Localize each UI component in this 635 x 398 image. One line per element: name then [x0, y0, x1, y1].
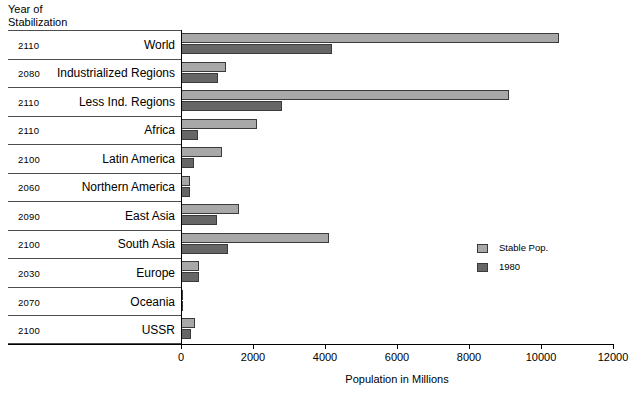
row-year: 2110 — [18, 96, 39, 107]
row-category-label: USSR — [142, 323, 175, 337]
x-tick-label: 2000 — [241, 351, 265, 363]
category-row: 2110Africa — [8, 116, 181, 145]
bars-column — [181, 30, 613, 344]
bar-year-1980 — [181, 101, 282, 111]
category-row: 2100South Asia — [8, 230, 181, 259]
bar-stable-pop — [181, 62, 226, 72]
category-label-column: 2110World2080Industrialized Regions2110L… — [8, 30, 181, 344]
x-tick-label: 8000 — [457, 351, 481, 363]
year-of-stabilization-header: Year of Stabilization — [8, 3, 67, 29]
bar-row — [181, 315, 613, 344]
row-year: 2090 — [18, 210, 40, 221]
x-tick-label: 10000 — [526, 351, 557, 363]
row-year: 2060 — [18, 182, 40, 193]
bar-row — [181, 59, 613, 88]
bar-year-1980 — [181, 329, 191, 339]
bar-year-1980 — [181, 244, 228, 254]
bar-stable-pop — [181, 119, 257, 129]
bar-row — [181, 30, 613, 59]
bar-row — [181, 173, 613, 202]
row-category-label: Northern America — [82, 180, 175, 194]
x-tick-label: 0 — [178, 351, 184, 363]
x-tick — [397, 344, 398, 349]
x-axis-label: Population in Millions — [181, 373, 613, 385]
row-year: 2080 — [18, 68, 40, 79]
x-tick — [253, 344, 254, 349]
x-axis-line — [8, 344, 613, 345]
row-category-label: Latin America — [102, 152, 175, 166]
legend: Stable Pop.1980 — [477, 241, 597, 279]
x-tick — [325, 344, 326, 349]
row-year: 2100 — [18, 153, 40, 164]
row-category-label: East Asia — [125, 209, 175, 223]
legend-swatch-icon — [477, 263, 488, 272]
x-tick — [613, 344, 614, 349]
row-year: 2110 — [18, 39, 39, 50]
plot-area: 2110World2080Industrialized Regions2110L… — [8, 30, 613, 344]
x-tick-label: 12000 — [598, 351, 629, 363]
category-row: 2070Oceania — [8, 287, 181, 316]
category-row: 2060Northern America — [8, 173, 181, 202]
category-axis-line — [181, 30, 182, 344]
bar-stable-pop — [181, 318, 195, 328]
legend-label: Stable Pop. — [499, 241, 548, 255]
category-row: 2100Latin America — [8, 144, 181, 173]
row-category-label: World — [144, 38, 175, 52]
category-row: 2080Industrialized Regions — [8, 59, 181, 88]
bar-year-1980 — [181, 158, 194, 168]
legend-item: Stable Pop. — [477, 241, 597, 260]
category-row: 2110World — [8, 30, 181, 59]
bar-stable-pop — [181, 233, 329, 243]
row-year: 2110 — [18, 125, 39, 136]
row-year: 2070 — [18, 296, 40, 307]
bar-year-1980 — [181, 187, 190, 197]
bar-stable-pop — [181, 176, 190, 186]
row-category-label: South Asia — [118, 237, 175, 251]
category-row: 2090East Asia — [8, 201, 181, 230]
bar-row — [181, 287, 613, 316]
chart-root: Year of Stabilization 2110World2080Indus… — [0, 0, 635, 398]
row-year: 2030 — [18, 268, 40, 279]
bar-row — [181, 116, 613, 145]
bar-year-1980 — [181, 215, 217, 225]
legend-label: 1980 — [499, 260, 520, 274]
x-tick-label: 4000 — [313, 351, 337, 363]
bar-year-1980 — [181, 73, 218, 83]
bar-stable-pop — [181, 33, 559, 43]
category-row: 2100USSR — [8, 315, 181, 344]
bar-row — [181, 201, 613, 230]
bar-year-1980 — [181, 272, 199, 282]
bar-row — [181, 87, 613, 116]
x-tick — [469, 344, 470, 349]
bar-row — [181, 144, 613, 173]
category-row: 2030Europe — [8, 258, 181, 287]
row-year: 2100 — [18, 324, 40, 335]
bar-stable-pop — [181, 261, 199, 271]
bar-stable-pop — [181, 204, 239, 214]
category-row: 2110Less Ind. Regions — [8, 87, 181, 116]
row-category-label: Europe — [136, 266, 175, 280]
row-category-label: Africa — [144, 123, 175, 137]
bar-stable-pop — [181, 90, 509, 100]
row-year: 2100 — [18, 239, 40, 250]
x-tick — [541, 344, 542, 349]
bar-stable-pop — [181, 147, 222, 157]
row-category-label: Oceania — [130, 295, 175, 309]
legend-swatch-icon — [477, 244, 488, 253]
row-category-label: Less Ind. Regions — [79, 95, 175, 109]
legend-item: 1980 — [477, 260, 597, 279]
bar-year-1980 — [181, 130, 198, 140]
bar-year-1980 — [181, 44, 332, 54]
row-category-label: Industrialized Regions — [57, 66, 175, 80]
x-tick — [181, 344, 182, 349]
x-tick-label: 6000 — [385, 351, 409, 363]
